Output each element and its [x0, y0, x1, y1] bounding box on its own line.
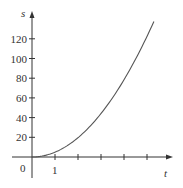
chart: 20406080100120 s 0 1 t	[0, 0, 183, 188]
y-tick-label: 80	[16, 72, 28, 84]
y-axis: 20406080100120 s	[11, 7, 36, 178]
x-axis-label: t	[164, 167, 168, 179]
y-axis-arrow-icon	[30, 11, 35, 18]
y-tick-label: 120	[11, 33, 28, 45]
x-axis-arrow-icon	[166, 155, 173, 160]
origin-label: 0	[20, 162, 26, 174]
y-tick-label: 20	[16, 131, 28, 143]
y-tick-label: 60	[16, 92, 28, 104]
y-tick-label: 40	[16, 112, 28, 124]
x-axis: 0 1 t	[12, 154, 173, 179]
x-tick-label-1: 1	[52, 164, 58, 176]
y-axis-label: s	[21, 7, 25, 19]
y-tick-label: 100	[11, 53, 28, 65]
data-curve	[32, 21, 154, 157]
